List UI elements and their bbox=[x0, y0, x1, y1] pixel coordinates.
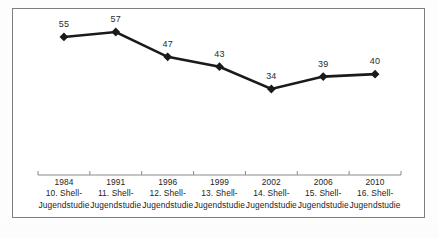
category-study-name: Jugendstudie bbox=[142, 200, 194, 211]
category-study-number: 11. Shell- bbox=[90, 188, 142, 199]
data-point-marker bbox=[60, 33, 69, 42]
category-study-number: 16. Shell- bbox=[349, 188, 401, 199]
x-axis-category-label: 201016. Shell-Jugendstudie bbox=[349, 177, 401, 217]
x-axis-category-label: 199612. Shell-Jugendstudie bbox=[142, 177, 194, 217]
data-point-marker bbox=[371, 70, 380, 79]
category-study-number: 10. Shell- bbox=[38, 188, 90, 199]
category-study-number: 14. Shell- bbox=[245, 188, 297, 199]
x-axis-category-label: 198410. Shell-Jugendstudie bbox=[38, 177, 90, 217]
data-point-marker bbox=[111, 28, 120, 37]
category-study-name: Jugendstudie bbox=[245, 200, 297, 211]
category-study-name: Jugendstudie bbox=[90, 200, 142, 211]
x-axis-category-label: 199111. Shell-Jugendstudie bbox=[90, 177, 142, 217]
category-year: 1996 bbox=[142, 177, 194, 188]
cropped-caption-remnant bbox=[0, 226, 438, 238]
data-point-marker bbox=[267, 85, 276, 94]
category-study-name: Jugendstudie bbox=[194, 200, 246, 211]
chart-plot-frame: 55574743343940 198410. Shell-Jugendstudi… bbox=[12, 8, 425, 218]
category-year: 1984 bbox=[38, 177, 90, 188]
chart-figure: 55574743343940 198410. Shell-Jugendstudi… bbox=[0, 0, 438, 238]
data-point-value-label: 43 bbox=[207, 49, 233, 59]
x-axis-category-label: 200615. Shell-Jugendstudie bbox=[297, 177, 349, 217]
category-year: 2006 bbox=[297, 177, 349, 188]
category-study-name: Jugendstudie bbox=[297, 200, 349, 211]
x-axis-ticks bbox=[38, 171, 401, 175]
data-point-marker bbox=[215, 62, 224, 71]
data-point-marker bbox=[163, 52, 172, 61]
x-axis-category-label: 200214. Shell-Jugendstudie bbox=[245, 177, 297, 217]
category-study-number: 15. Shell- bbox=[297, 188, 349, 199]
data-point-value-label: 34 bbox=[258, 71, 284, 81]
category-study-number: 13. Shell- bbox=[194, 188, 246, 199]
data-point-marker bbox=[319, 72, 328, 81]
category-study-name: Jugendstudie bbox=[38, 200, 90, 211]
category-study-name: Jugendstudie bbox=[349, 200, 401, 211]
data-point-value-label: 40 bbox=[362, 56, 388, 66]
category-study-number: 12. Shell- bbox=[142, 188, 194, 199]
data-point-value-label: 57 bbox=[103, 14, 129, 24]
category-year: 1999 bbox=[194, 177, 246, 188]
category-year: 2002 bbox=[245, 177, 297, 188]
data-point-value-label: 55 bbox=[51, 19, 77, 29]
category-year: 2010 bbox=[349, 177, 401, 188]
data-point-value-label: 47 bbox=[155, 39, 181, 49]
data-point-value-label: 39 bbox=[310, 59, 336, 69]
x-axis-category-label: 199913. Shell-Jugendstudie bbox=[194, 177, 246, 217]
x-axis-category-labels: 198410. Shell-Jugendstudie199111. Shell-… bbox=[38, 177, 401, 217]
category-year: 1991 bbox=[90, 177, 142, 188]
